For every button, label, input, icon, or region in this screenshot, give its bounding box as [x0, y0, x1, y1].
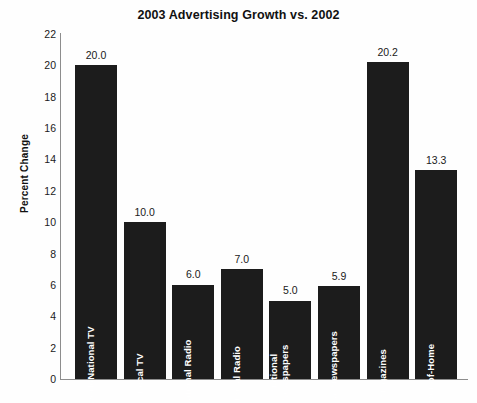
- chart-title: 2003 Advertising Growth vs. 2002: [0, 8, 477, 22]
- bar-category-label: National Newspapers: [269, 330, 290, 403]
- bar-value-label: 20.0: [86, 50, 106, 61]
- bar-group[interactable]: Magazines20.2: [367, 34, 409, 379]
- bar-value-label: 7.0: [234, 254, 249, 265]
- y-tick-label: 22: [36, 29, 56, 40]
- bar-rect[interactable]: Magazines: [367, 62, 409, 379]
- bar-group[interactable]: Network/National TV20.0: [75, 34, 117, 379]
- y-tick-label: 20: [36, 60, 56, 71]
- bar-value-label: 10.0: [134, 207, 154, 218]
- bar-rect[interactable]: Local TV: [124, 222, 166, 379]
- bar-value-label: 20.2: [377, 47, 397, 58]
- bar-group[interactable]: Local Radio7.0: [221, 34, 263, 379]
- bar-value-label: 5.9: [332, 271, 347, 282]
- bar-value-label: 6.0: [186, 269, 201, 280]
- bar-category-label: Network/National TV: [86, 326, 97, 403]
- bar-rect[interactable]: Out-of-Home: [415, 170, 457, 379]
- bar-rect[interactable]: Network/National TV: [75, 65, 117, 379]
- y-tick-label: 10: [36, 217, 56, 228]
- bar-rect[interactable]: Local Newspapers: [318, 286, 360, 379]
- y-tick-label: 4: [36, 311, 56, 322]
- y-tick-label: 8: [36, 248, 56, 259]
- bar-rect[interactable]: Local Radio: [221, 269, 263, 379]
- bar-group[interactable]: Out-of-Home13.3: [415, 34, 457, 379]
- y-tick-label: 18: [36, 91, 56, 102]
- bar-rect[interactable]: National Newspapers: [269, 301, 311, 379]
- bar-group[interactable]: Local Newspapers5.9: [318, 34, 360, 379]
- bar-category-label: Local TV: [134, 353, 145, 393]
- bar-group[interactable]: National Newspapers5.0: [269, 34, 311, 379]
- y-tick-label: 6: [36, 280, 56, 291]
- plot-area: Network/National TV20.0Local TV10.0Natio…: [61, 34, 467, 379]
- bar-category-label: National Radio: [183, 330, 194, 403]
- bar-value-label: 13.3: [426, 155, 446, 166]
- y-tick-label: 16: [36, 123, 56, 134]
- bar-group[interactable]: National Radio6.0: [172, 34, 214, 379]
- bar-category-label: Local Newspapers: [329, 330, 340, 403]
- bar-value-label: 5.0: [283, 285, 298, 296]
- bar-chart: 2003 Advertising Growth vs. 2002 Percent…: [0, 0, 477, 403]
- y-tick-label: 14: [36, 154, 56, 165]
- bar-category-label: Local Radio: [231, 346, 242, 401]
- bar-rect[interactable]: National Radio: [172, 285, 214, 379]
- y-axis-title: Percent Change: [19, 114, 30, 234]
- y-tick-label: 2: [36, 342, 56, 353]
- x-axis-line: [60, 379, 468, 380]
- y-axis-tick-labels: 2220181614121086420: [32, 0, 56, 403]
- y-tick-label: 12: [36, 186, 56, 197]
- bar-category-label: Magazines: [377, 349, 388, 398]
- bar-group[interactable]: Local TV10.0: [124, 34, 166, 379]
- y-tick-label: 0: [36, 374, 56, 385]
- bar-category-label: Out-of-Home: [426, 343, 437, 402]
